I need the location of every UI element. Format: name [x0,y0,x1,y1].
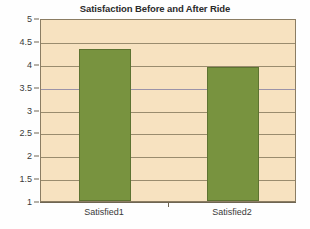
y-axis-tick-mark [34,110,39,111]
x-axis-tick-mark [168,202,169,207]
y-axis-tick-mark [34,41,39,42]
y-axis-tick-mark [34,64,39,65]
y-axis-tick-mark [34,19,39,20]
y-axis-tick-mark [34,87,39,88]
chart-title: Satisfaction Before and After Ride [0,3,310,14]
bar-chart: Satisfaction Before and After Ride 54.54… [0,0,310,229]
y-axis-tick-marks [0,19,40,202]
y-axis-tick-mark [34,179,39,180]
plot-area [40,19,296,202]
x-axis-labels: Satisfied1Satisfied2 [40,207,296,225]
bar-satisfied1[interactable] [79,49,131,201]
y-axis-tick-mark [34,202,39,203]
y-axis-tick-mark [34,156,39,157]
x-axis-tick-label: Satisfied2 [212,207,252,217]
bars-layer [41,20,295,201]
bar-satisfied2[interactable] [207,67,259,202]
y-axis-tick-mark [34,133,39,134]
x-axis-tick-label: Satisfied1 [84,207,124,217]
